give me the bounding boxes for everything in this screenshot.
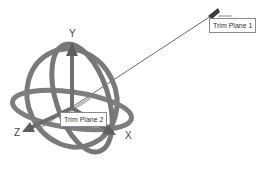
axis-label-y: Y [69, 28, 76, 39]
trim-plane-1-callout[interactable]: Trim Plane 1 [209, 18, 256, 33]
axis-label-z: Z [14, 127, 20, 138]
axis-label-x: X [125, 130, 132, 141]
graphics-viewport[interactable]: Y X Z Trim Plane 1 Trim Plane 2 [0, 0, 265, 180]
trim-plane-2-callout[interactable]: Trim Plane 2 [60, 112, 107, 127]
